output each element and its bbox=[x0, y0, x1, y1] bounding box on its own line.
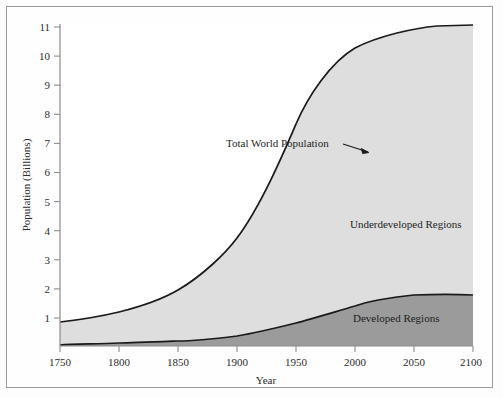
underdeveloped-regions-label: Underdeveloped Regions bbox=[350, 218, 462, 230]
y-tick-label-3: 3 bbox=[45, 254, 51, 266]
y-tick-label-6: 6 bbox=[45, 166, 51, 178]
y-axis-title: Population (Billions) bbox=[20, 138, 33, 231]
y-axis-tick-labels: 11 10 9 8 7 6 5 4 3 2 1 bbox=[39, 21, 51, 324]
x-axis-ticks bbox=[60, 346, 473, 352]
x-tick-label-2100: 2100 bbox=[460, 356, 483, 368]
x-tick-label-1850: 1850 bbox=[167, 356, 190, 368]
y-tick-label-8: 8 bbox=[45, 108, 51, 120]
total-world-population-annotation-label: Total World Population bbox=[226, 137, 329, 149]
x-axis-tick-labels: 1750 1800 1850 1900 1950 2000 2050 2100 bbox=[49, 356, 483, 368]
y-axis-ticks bbox=[54, 27, 60, 318]
y-tick-label-1: 1 bbox=[45, 312, 51, 324]
y-tick-label-2: 2 bbox=[45, 283, 51, 295]
y-tick-label-11: 11 bbox=[39, 21, 50, 33]
x-tick-label-1900: 1900 bbox=[226, 356, 249, 368]
chart-page: 11 10 9 8 7 6 5 4 3 2 1 1750 1800 1850 1… bbox=[0, 0, 503, 397]
x-tick-label-1950: 1950 bbox=[285, 356, 308, 368]
population-area-chart: 11 10 9 8 7 6 5 4 3 2 1 1750 1800 1850 1… bbox=[0, 0, 503, 397]
y-tick-label-5: 5 bbox=[45, 196, 51, 208]
y-tick-label-7: 7 bbox=[45, 137, 51, 149]
x-tick-label-1800: 1800 bbox=[108, 356, 131, 368]
x-tick-label-2050: 2050 bbox=[403, 356, 426, 368]
y-tick-label-10: 10 bbox=[39, 50, 51, 62]
x-tick-label-2000: 2000 bbox=[344, 356, 367, 368]
x-tick-label-1750: 1750 bbox=[49, 356, 72, 368]
y-tick-label-4: 4 bbox=[45, 225, 51, 237]
x-axis-title: Year bbox=[256, 374, 277, 386]
developed-regions-label: Developed Regions bbox=[353, 312, 439, 324]
y-tick-label-9: 9 bbox=[45, 79, 51, 91]
